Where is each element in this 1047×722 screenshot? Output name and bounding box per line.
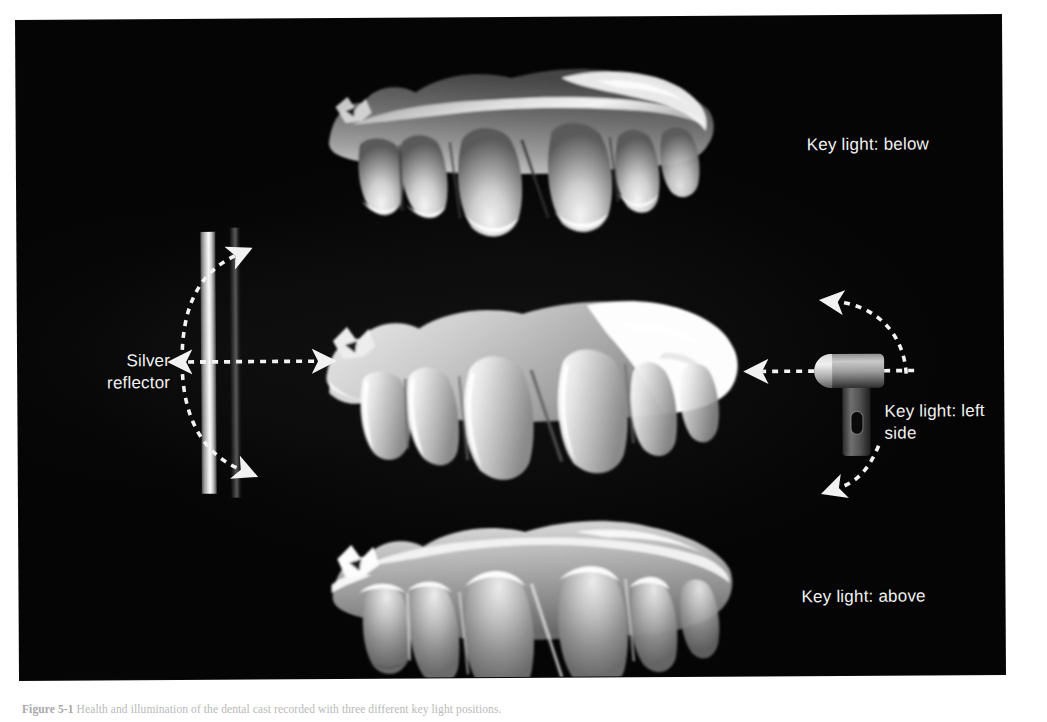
reflector-shadow-bar — [229, 228, 242, 498]
flash-head-slot — [851, 412, 862, 434]
label-key-light-left-side: Key light: left side — [884, 400, 1003, 444]
label-silver-reflector: Silver reflector — [50, 350, 170, 394]
key-light-diagram — [756, 294, 917, 495]
flash-head-reflector-cap — [814, 354, 832, 388]
figure-root: Key light: below Key light: left side Ke… — [0, 0, 1047, 722]
dental-cast-key-light-below — [311, 61, 722, 249]
dental-cast-key-light-above — [315, 513, 740, 680]
figure-caption-label: Figure 5-1 — [22, 703, 74, 715]
silver-reflector-diagram — [177, 215, 329, 506]
silver-reflector-panel — [200, 232, 217, 494]
label-key-light-below: Key light: below — [807, 133, 929, 155]
figure-caption: Figure 5-1 Health and illumination of th… — [22, 702, 982, 722]
figure-caption-text: Health and illumination of the dental ca… — [77, 703, 502, 715]
label-key-light-above: Key light: above — [801, 585, 925, 608]
dental-cast-key-light-left-side — [311, 293, 744, 492]
reflector-arrow-right — [200, 361, 318, 362]
photographic-plate: Key light: below Key light: left side Ke… — [16, 15, 1005, 680]
